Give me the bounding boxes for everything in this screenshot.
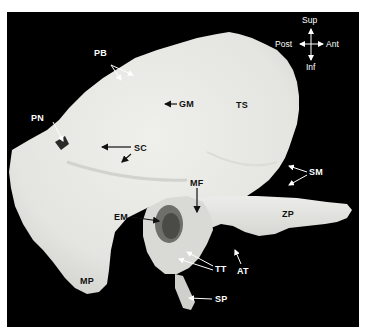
label-mf: MF: [190, 178, 203, 188]
label-ts: TS: [236, 100, 248, 110]
orientation-post-label: Post: [275, 39, 292, 49]
orientation-sup-label: Sup: [302, 15, 317, 25]
figure-panel: Sup Inf Post Ant PB PN GM TS SC SM MF EM…: [7, 12, 359, 327]
label-pb: PB: [94, 48, 107, 58]
label-tt: TT: [215, 264, 226, 274]
orientation-ant-label: Ant: [326, 39, 339, 49]
label-em: EM: [114, 212, 128, 222]
label-sm: SM: [309, 167, 323, 177]
label-pn: PN: [31, 113, 44, 123]
label-mp: MP: [80, 276, 94, 286]
label-zp: ZP: [282, 209, 294, 219]
label-gm: GM: [179, 99, 194, 109]
orientation-inf-label: Inf: [306, 62, 315, 72]
temporal-bone-image: [7, 12, 359, 327]
label-sp: SP: [215, 294, 227, 304]
label-at: AT: [237, 266, 249, 276]
styloid-process: [175, 274, 195, 310]
label-sc: SC: [134, 143, 147, 153]
